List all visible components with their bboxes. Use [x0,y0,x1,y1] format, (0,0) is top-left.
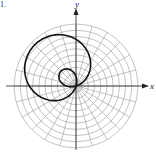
grid-radial-line [76,86,92,146]
grid-radial-line [76,86,107,140]
grid-radial-line [76,86,130,117]
x-axis-label: x [149,81,154,91]
grid-radial-line [76,32,107,86]
y-axis: y [74,0,80,150]
y-axis-arrow-icon [74,8,79,15]
grid-radial-line [76,70,136,86]
x-axis-arrow-icon [142,84,149,89]
grid-radial-line [22,86,76,117]
grid-radial-line [76,86,136,102]
polar-graph-figure: 1. x y [0,0,156,156]
y-axis-label: y [74,0,79,9]
figure-number-label: 1. [0,0,6,9]
grid-radial-line [45,32,76,86]
grid-radial-line [60,86,76,146]
grid-radial-line [22,55,76,86]
